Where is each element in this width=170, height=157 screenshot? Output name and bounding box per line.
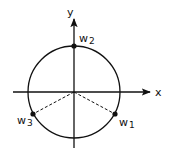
point-w2 [71,43,76,48]
point-w3 [30,111,35,116]
label-w2: w2 [79,32,95,46]
radius-w3 [33,92,74,114]
label-w1: w1 [119,116,135,130]
y-axis-label: y [67,6,74,19]
x-axis-label: x [155,86,162,99]
label-w3: w3 [17,114,33,128]
radius-w1 [74,92,115,114]
point-w1 [112,111,117,116]
unit-circle-diagram: x y w2 w1 w3 [0,0,170,157]
